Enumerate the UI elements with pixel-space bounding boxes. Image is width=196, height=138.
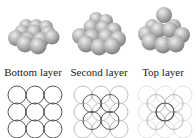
label-second-layer: Second layer <box>66 66 132 78</box>
panel-second-layer: Second layer <box>66 0 132 138</box>
label-top-layer: Top layer <box>130 66 196 78</box>
panel-bottom-layer: Bottom layer <box>0 0 66 138</box>
panel-top-layer: Top layer <box>130 0 196 138</box>
sphere-stack-second-icon <box>66 0 132 64</box>
circle-grid-bottom <box>0 84 66 138</box>
sphere-stack-top-icon <box>130 0 196 64</box>
circle-grid-top <box>130 84 196 138</box>
label-bottom-layer: Bottom layer <box>0 66 66 78</box>
sphere-stack-bottom-icon <box>0 0 66 64</box>
circle-grid-second <box>66 84 132 138</box>
